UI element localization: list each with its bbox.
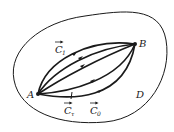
curve-c0 — [38, 44, 135, 97]
curve-3 — [38, 44, 135, 94]
svg-text:0: 0 — [97, 110, 101, 117]
svg-text:1: 1 — [62, 49, 66, 56]
label-ctau: C τ — [64, 103, 75, 117]
point-a-label: A — [26, 89, 34, 100]
label-c1: C 1 — [55, 42, 66, 56]
curve-2 — [38, 44, 135, 94]
curve-4 — [38, 44, 135, 94]
svg-text:τ: τ — [71, 110, 75, 117]
point-a — [36, 92, 40, 96]
label-c0: C 0 — [90, 103, 101, 117]
region-d-label: D — [135, 89, 144, 100]
point-b — [133, 42, 137, 46]
point-b-label: B — [138, 38, 146, 49]
ctau-pointer — [71, 92, 72, 99]
homotopy-diagram: A B D C 1 C τ C 0 — [0, 0, 174, 132]
